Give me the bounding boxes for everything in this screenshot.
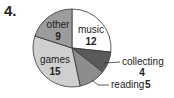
pie-chart: music 12 other 9 games 15 collecting 4 r… <box>0 0 174 98</box>
value-collecting: 4 <box>139 67 145 78</box>
value-other: 9 <box>55 31 61 42</box>
label-collecting: collecting <box>122 56 164 67</box>
label-reading: reading <box>111 79 144 90</box>
leader-line-reading <box>92 80 109 85</box>
value-music: 12 <box>85 36 97 47</box>
label-music: music <box>78 24 104 35</box>
value-reading: 5 <box>145 79 151 90</box>
value-games: 15 <box>49 66 61 77</box>
label-games: games <box>40 54 70 65</box>
label-other: other <box>47 19 70 30</box>
